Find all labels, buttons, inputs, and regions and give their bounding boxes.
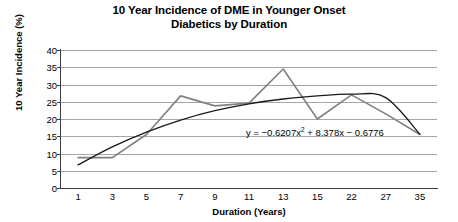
x-tick-label-3: 3 [95,192,129,202]
y-tick-label-25: 25 [31,98,57,108]
trendline-equation-label: y = −0.6207x2 + 8.378x − 0.6776 [246,126,384,138]
equation-prefix: y = −0.6207x [246,127,301,138]
chart-title-line-1: 10 Year Incidence of DME in Younger Onse… [113,4,346,16]
y-tick-label-30: 30 [31,81,57,91]
equation-suffix: + 8.378x − 0.6776 [305,127,384,138]
x-tick-label-35: 35 [403,192,437,202]
y-tick-label-40: 40 [31,46,57,56]
x-axis-line [60,188,438,189]
y-tick-label-35: 35 [31,63,57,73]
x-tick-label-1: 1 [61,192,95,202]
data-series-line [78,69,420,158]
x-tick-label-7: 7 [164,192,198,202]
x-tick-label-27: 27 [369,192,403,202]
x-axis-title: Duration (Years) [61,206,437,217]
chart-title-line-2: Diabetics by Duration [0,17,458,31]
x-tick-label-9: 9 [198,192,232,202]
x-tick-label-11: 11 [232,192,266,202]
chart-container: 10 Year Incidence of DME in Younger Onse… [0,0,458,222]
x-tick-label-13: 13 [266,192,300,202]
y-axis-title: 10 Year Incidence (%) [13,0,24,128]
series-layer [61,50,437,188]
y-tick-mark-0 [57,188,61,189]
y-tick-label-10: 10 [31,150,57,160]
y-tick-label-0: 0 [31,184,57,194]
y-tick-label-15: 15 [31,132,57,142]
x-tick-label-15: 15 [300,192,334,202]
chart-title: 10 Year Incidence of DME in Younger Onse… [0,3,458,31]
x-tick-label-22: 22 [335,192,369,202]
y-tick-label-5: 5 [31,167,57,177]
x-tick-label-5: 5 [129,192,163,202]
y-tick-label-20: 20 [31,115,57,125]
